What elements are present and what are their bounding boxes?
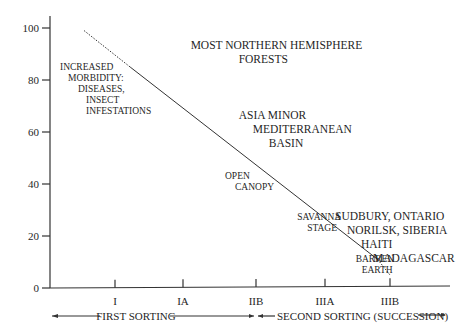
annotation-sudbury: SUDBURY, ONTARIONORILSK, SIBERIAHAITIMAD… — [335, 210, 455, 264]
annotation-line: BASIN — [269, 137, 304, 149]
annotation-line: STAGE — [307, 223, 337, 233]
annotation-most-northern: MOST NORTHERN HEMISPHEREFORESTS — [191, 39, 363, 65]
arrow-head-right-icon — [249, 314, 254, 318]
trend-line-segment — [130, 67, 378, 259]
x-tick-label: I — [113, 295, 117, 307]
arrow-head-left-icon — [52, 314, 58, 318]
annotation-line: SUDBURY, ONTARIO — [335, 210, 444, 223]
annotation-line: BARREN — [356, 254, 395, 264]
annotation-line: FORESTS — [239, 53, 288, 65]
annotation-asia-minor: ASIA MINORMEDITERRANEANBASIN — [239, 109, 353, 149]
annotation-barren-earth: BARRENEARTH — [356, 254, 395, 275]
y-tick-label: 40 — [28, 178, 40, 190]
x-tick-label: IIIB — [381, 295, 399, 307]
y-tick-label: 80 — [28, 74, 40, 86]
x-tick-label: IIB — [249, 295, 264, 307]
y-tick-label: 60 — [28, 126, 40, 138]
annotation-line: NORILSK, SIBERIA — [347, 224, 448, 237]
annotation-line: INSECT — [86, 95, 119, 105]
annotation-line: ASIA MINOR — [239, 109, 307, 121]
annotation-line: INFESTATIONS — [86, 106, 151, 116]
annotation-increased-morbidity: INCREASEDMORBIDITY:DISEASES,INSECTINFEST… — [60, 62, 151, 116]
annotation-line: HAITI — [361, 238, 392, 250]
annotation-line: EARTH — [362, 265, 393, 275]
annotation-line: MOST NORTHERN HEMISPHERE — [191, 39, 363, 51]
second-sorting-label: SECOND SORTING (SUCCESSION) — [277, 310, 448, 323]
y-tick-label: 20 — [28, 230, 40, 242]
annotation-line: CANOPY — [235, 182, 274, 192]
annotation-line: MEDITERRANEAN — [253, 123, 353, 135]
x-tick-label: IA — [177, 295, 189, 307]
y-tick-label: 100 — [23, 22, 40, 34]
annotation-line: INCREASED — [60, 62, 113, 72]
annotation-line: MORBIDITY: — [68, 73, 124, 83]
first-sorting-label: FIRST SORTING — [96, 310, 176, 322]
x-tick-label: IIIA — [316, 295, 335, 307]
y-tick-label: 0 — [34, 282, 40, 294]
annotation-line: OPEN — [225, 171, 250, 181]
annotation-line: DISEASES, — [78, 84, 125, 94]
annotation-open-canopy: OPENCANOPY — [225, 171, 274, 192]
chart: 020406080100IIAIIBIIIAIIIBMOST NORTHERN … — [0, 0, 470, 335]
